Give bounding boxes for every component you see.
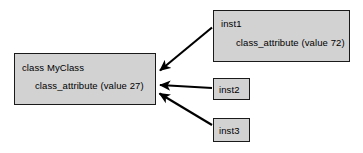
inst2-title: inst2 (219, 85, 240, 96)
class-myclass-title: class MyClass (22, 63, 84, 74)
inst3-title: inst3 (219, 126, 240, 137)
arrow-inst1-to-myclass (160, 28, 212, 71)
class-myclass-box[interactable]: class MyClass class_attribute (value 27) (14, 53, 156, 105)
class-myclass-attribute: class_attribute (value 27) (35, 81, 144, 92)
inst1-attribute: class_attribute (value 72) (236, 38, 345, 49)
inst1-box[interactable]: inst1 class_attribute (value 72) (213, 10, 350, 62)
arrow-inst2-to-myclass (160, 85, 212, 88)
arrow-inst3-to-myclass (160, 94, 213, 126)
inst2-box[interactable]: inst2 (213, 78, 250, 100)
inst1-title: inst1 (221, 19, 242, 30)
inst3-box[interactable]: inst3 (213, 118, 250, 142)
object-relationship-diagram: class MyClass class_attribute (value 27)… (0, 0, 363, 153)
